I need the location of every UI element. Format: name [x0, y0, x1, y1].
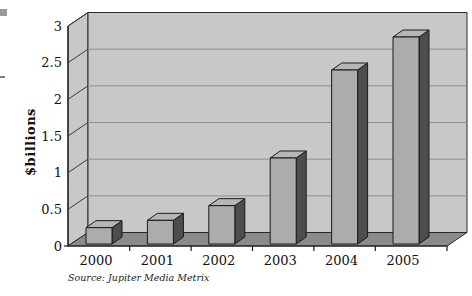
bar-front-2003: [270, 158, 296, 244]
bar-2000: [86, 221, 122, 244]
y-axis-title: $billions: [23, 108, 38, 176]
screenshot-root: 00.511.522.53200020012002200320042005 $b…: [0, 0, 472, 296]
bar-front-2005: [393, 37, 419, 244]
source-note: Source: Jupiter Media Metrix: [68, 272, 209, 283]
bar-2001: [147, 213, 183, 244]
bar-2003: [270, 151, 306, 244]
y-tick-label-0.5: 0.5: [41, 202, 62, 217]
bar-2004: [332, 63, 368, 244]
y-tick-label-1: 1: [54, 165, 62, 180]
bar-2005: [393, 30, 429, 244]
bar-front-2004: [332, 70, 358, 244]
x-tick-label-2002: 2002: [202, 253, 235, 268]
y-tick-label-1.5: 1.5: [41, 129, 62, 144]
y-tick-label-3: 3: [54, 19, 62, 34]
bar-front-2000: [86, 228, 112, 244]
bar-side-2005: [419, 30, 429, 244]
y-tick-label-2: 2: [54, 92, 62, 107]
x-tick-label-2000: 2000: [79, 253, 112, 268]
x-tick-label-2005: 2005: [386, 253, 419, 268]
x-tick-label-2004: 2004: [325, 253, 358, 268]
bar-front-2001: [147, 220, 173, 244]
bar-side-2004: [358, 63, 368, 244]
bar-side-2003: [296, 151, 306, 244]
bar-2002: [209, 199, 245, 244]
bar-chart: 00.511.522.53200020012002200320042005: [0, 0, 472, 296]
x-tick-label-2003: 2003: [264, 253, 297, 268]
x-tick-label-2001: 2001: [141, 253, 174, 268]
y-tick-label-0: 0: [54, 239, 62, 254]
y-tick-label-2.5: 2.5: [41, 55, 62, 70]
bar-side-2002: [235, 199, 245, 244]
bar-front-2002: [209, 206, 235, 244]
